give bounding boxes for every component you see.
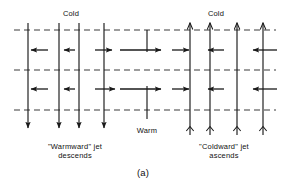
label-coldward-jet-line2: ascends	[199, 151, 249, 160]
circulation-diagram	[0, 0, 287, 191]
label-warmward-jet: "Warmward" jet descends	[48, 142, 102, 160]
label-coldward-jet-line1: "Coldward" jet	[199, 142, 249, 151]
panel-caption: (a)	[137, 168, 149, 177]
label-coldward-jet: "Coldward" jet ascends	[199, 142, 249, 160]
ascending-column-arrowheads	[186, 127, 266, 132]
descending-columns	[28, 23, 104, 128]
label-warm: Warm	[137, 126, 158, 135]
ascending-columns	[190, 23, 263, 135]
label-cold-left: Cold	[63, 9, 79, 18]
label-warmward-jet-line1: "Warmward" jet	[48, 142, 102, 151]
figure-panel-a: Cold Cold Warm "Warmward" jet descends "…	[0, 0, 287, 191]
label-cold-right: Cold	[208, 9, 224, 18]
label-warmward-jet-line2: descends	[48, 151, 102, 160]
